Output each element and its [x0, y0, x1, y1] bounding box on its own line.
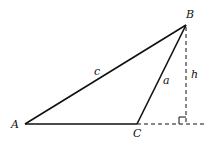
triangle-diagram: A B C c a h — [0, 0, 215, 144]
vertex-label-b: B — [185, 8, 194, 21]
right-angle-marker — [179, 117, 186, 124]
vertex-label-c: C — [133, 127, 142, 140]
vertex-label-a: A — [10, 118, 19, 131]
side-label-c: c — [94, 65, 100, 78]
side-label-a: a — [163, 74, 170, 87]
altitude-label-h: h — [191, 68, 198, 81]
